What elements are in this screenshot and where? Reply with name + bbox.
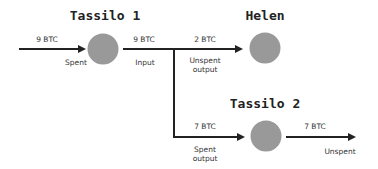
- edge-status-helen-line2: output: [193, 65, 218, 74]
- edge-amount-t2-out: 7 BTC: [304, 122, 326, 131]
- node-helen: [250, 33, 281, 64]
- node-tassilo1: [88, 34, 119, 65]
- node-title-helen: Helen: [245, 8, 284, 23]
- edge-status-t2-line1: Spent: [194, 145, 216, 154]
- node-title-tassilo2: Tassilo 2: [230, 96, 300, 111]
- edge-status-helen-line1: Unspent: [189, 56, 220, 65]
- edge-status-t2-out: Unspent: [324, 147, 355, 156]
- bitcoin-transaction-diagram: Tassilo 1 Helen Tassilo 2 9 BTC Spent 9 …: [0, 0, 378, 169]
- edge-status-t2-line2: output: [193, 154, 218, 163]
- edge-status-t1-out: Input: [135, 58, 154, 67]
- edge-amount-tassilo2: 7 BTC: [194, 122, 216, 131]
- node-tassilo2: [251, 121, 282, 152]
- edge-status-in: Spent: [65, 58, 87, 67]
- edge-amount-t1-out: 9 BTC: [133, 35, 155, 44]
- edge-amount-helen: 2 BTC: [194, 35, 216, 44]
- node-title-tassilo1: Tassilo 1: [70, 8, 141, 23]
- edge-amount-in: 9 BTC: [36, 35, 58, 44]
